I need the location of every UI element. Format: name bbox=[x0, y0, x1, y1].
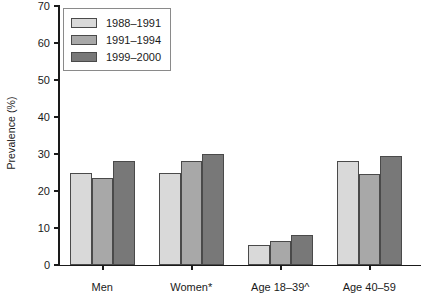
x-axis-category-label: Age 18–39^ bbox=[251, 281, 309, 293]
x-axis-tick-mark bbox=[191, 265, 192, 270]
bar bbox=[380, 156, 402, 265]
bar bbox=[202, 154, 224, 265]
y-axis-title-label: Prevalence (%) bbox=[5, 96, 17, 169]
y-axis-tick: 20 bbox=[38, 185, 59, 197]
legend: 1988–19911991–19941999–2000 bbox=[63, 8, 171, 71]
y-axis-tick-label: 70 bbox=[38, 0, 50, 12]
y-axis-tick-mark bbox=[54, 79, 59, 80]
y-axis-tick: 0 bbox=[44, 259, 59, 271]
bar bbox=[70, 173, 92, 266]
y-axis-tick-label: 0 bbox=[44, 259, 50, 271]
x-axis-tick-mark bbox=[369, 265, 370, 270]
y-axis-tick-label: 20 bbox=[38, 185, 50, 197]
bar bbox=[113, 161, 135, 265]
y-axis-tick-mark bbox=[54, 116, 59, 117]
bar bbox=[337, 161, 359, 265]
legend-item: 1991–1994 bbox=[71, 31, 161, 48]
y-axis-tick-mark bbox=[54, 190, 59, 191]
y-axis-tick-mark bbox=[54, 42, 59, 43]
y-axis-tick-label: 50 bbox=[38, 74, 50, 86]
legend-item: 1988–1991 bbox=[71, 14, 161, 31]
legend-swatch bbox=[71, 52, 97, 62]
y-axis-tick-label: 40 bbox=[38, 111, 50, 123]
legend-label: 1988–1991 bbox=[106, 17, 161, 29]
bar bbox=[181, 161, 203, 265]
y-axis-tick-label: 60 bbox=[38, 37, 50, 49]
bar bbox=[291, 235, 313, 265]
y-axis-tick: 30 bbox=[38, 148, 59, 160]
y-axis-tick: 70 bbox=[38, 0, 59, 12]
y-axis-tick-mark bbox=[54, 264, 59, 265]
y-axis-tick: 60 bbox=[38, 37, 59, 49]
y-axis-tick-mark bbox=[54, 5, 59, 6]
bar bbox=[92, 178, 114, 265]
y-axis-tick-mark bbox=[54, 227, 59, 228]
legend-swatch bbox=[71, 18, 97, 28]
bar bbox=[270, 241, 292, 265]
y-axis-tick-mark bbox=[54, 153, 59, 154]
y-axis-title: Prevalence (%) bbox=[2, 0, 20, 265]
y-axis-tick: 10 bbox=[38, 222, 59, 234]
x-axis-tick-mark bbox=[102, 265, 103, 270]
y-axis-tick: 40 bbox=[38, 111, 59, 123]
y-axis-tick-label: 10 bbox=[38, 222, 50, 234]
legend-swatch bbox=[71, 35, 97, 45]
bar-chart: Prevalence (%) 010203040506070 1988–1991… bbox=[0, 0, 425, 307]
legend-label: 1991–1994 bbox=[106, 34, 161, 46]
bar bbox=[248, 245, 270, 265]
bar bbox=[359, 174, 381, 265]
y-axis-tick: 50 bbox=[38, 74, 59, 86]
x-axis-category-label: Age 40–59 bbox=[343, 281, 396, 293]
x-axis-category-label: Men bbox=[92, 281, 113, 293]
bar bbox=[159, 173, 181, 266]
legend-label: 1999–2000 bbox=[106, 51, 161, 63]
x-axis-category-label: Women* bbox=[170, 281, 212, 293]
x-axis-tick-mark bbox=[280, 265, 281, 270]
y-axis-tick-label: 30 bbox=[38, 148, 50, 160]
legend-item: 1999–2000 bbox=[71, 48, 161, 65]
